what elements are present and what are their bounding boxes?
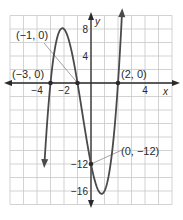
point-label: (−3, 0): [12, 68, 44, 80]
point-label: (2, 0): [121, 68, 147, 80]
x-axis-arrow-left-icon: [4, 80, 12, 86]
y-tick-label: −16: [71, 186, 88, 197]
point-marker: [116, 81, 121, 86]
cubic-function-graph: x y −4−2484−12−16 (−3, 0)(−1, 0)(2, 0)(0…: [0, 0, 183, 220]
y-axis-arrow-up-icon: [88, 12, 94, 20]
curve-arrow-down-icon: [41, 159, 48, 168]
x-axis-arrow-right-icon: [172, 80, 180, 86]
point-label: (0, −12): [121, 145, 159, 157]
x-tick-label: 4: [142, 85, 148, 96]
x-tick-label: −4: [31, 85, 43, 96]
curve-arrow-up-icon: [118, 8, 125, 17]
leader-line: [91, 150, 122, 164]
point-marker: [48, 81, 53, 86]
point-marker: [75, 81, 80, 86]
y-tick-label: 4: [82, 51, 88, 62]
y-axis-label: y: [94, 16, 101, 27]
y-tick-label: −12: [71, 159, 88, 170]
x-tick-label: −2: [58, 85, 70, 96]
point-marker: [89, 162, 94, 167]
y-tick-label: 8: [82, 24, 88, 35]
y-axis-arrow-down-icon: [88, 200, 94, 208]
leader-line: [44, 43, 78, 83]
point-label: (−1, 0): [16, 29, 48, 41]
labeled-points: (−3, 0)(−1, 0)(2, 0)(0, −12): [12, 29, 159, 166]
x-axis-label: x: [162, 86, 169, 97]
